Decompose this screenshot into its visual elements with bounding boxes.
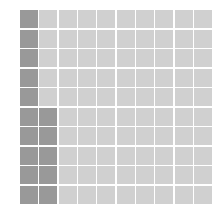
waffle-cell-empty <box>97 30 115 48</box>
waffle-cell-empty <box>155 147 173 165</box>
waffle-cell-filled <box>20 147 38 165</box>
waffle-cell-empty <box>136 127 154 145</box>
waffle-cell-empty <box>136 30 154 48</box>
waffle-cell-empty <box>194 49 212 67</box>
waffle-cell-empty <box>78 69 96 87</box>
waffle-cell-empty <box>194 69 212 87</box>
waffle-cell-empty <box>59 108 77 126</box>
waffle-cell-empty <box>194 166 212 184</box>
waffle-cell-filled <box>39 127 57 145</box>
waffle-cell-empty <box>97 49 115 67</box>
waffle-cell-empty <box>117 147 135 165</box>
waffle-cell-empty <box>59 166 77 184</box>
waffle-cell-empty <box>117 49 135 67</box>
waffle-cell-empty <box>136 10 154 28</box>
waffle-cell-empty <box>175 69 193 87</box>
waffle-cell-empty <box>117 166 135 184</box>
waffle-cell-empty <box>117 186 135 204</box>
waffle-cell-empty <box>117 30 135 48</box>
waffle-cell-empty <box>97 88 115 106</box>
waffle-cell-empty <box>155 166 173 184</box>
waffle-cell-empty <box>97 166 115 184</box>
waffle-cell-empty <box>59 186 77 204</box>
waffle-cell-filled <box>20 166 38 184</box>
waffle-cell-empty <box>78 49 96 67</box>
waffle-chart <box>20 10 212 204</box>
waffle-cell-empty <box>136 186 154 204</box>
waffle-cell-empty <box>136 108 154 126</box>
waffle-cell-empty <box>136 88 154 106</box>
waffle-cell-filled <box>20 88 38 106</box>
waffle-cell-empty <box>194 127 212 145</box>
waffle-cell-filled <box>20 30 38 48</box>
waffle-cell-empty <box>39 88 57 106</box>
waffle-cell-empty <box>194 147 212 165</box>
waffle-cell-empty <box>59 49 77 67</box>
waffle-cell-empty <box>39 69 57 87</box>
waffle-cell-empty <box>136 69 154 87</box>
waffle-cell-empty <box>194 88 212 106</box>
waffle-cell-filled <box>39 186 57 204</box>
waffle-cell-empty <box>97 10 115 28</box>
waffle-cell-empty <box>97 108 115 126</box>
waffle-cell-filled <box>20 186 38 204</box>
waffle-cell-empty <box>136 147 154 165</box>
waffle-cell-empty <box>78 108 96 126</box>
waffle-cell-empty <box>175 166 193 184</box>
waffle-cell-empty <box>78 166 96 184</box>
waffle-cell-empty <box>59 147 77 165</box>
waffle-cell-filled <box>39 166 57 184</box>
waffle-cell-empty <box>97 127 115 145</box>
waffle-cell-empty <box>39 49 57 67</box>
waffle-cell-empty <box>194 108 212 126</box>
waffle-cell-empty <box>155 10 173 28</box>
waffle-cell-filled <box>20 49 38 67</box>
waffle-cell-empty <box>117 88 135 106</box>
waffle-cell-empty <box>155 88 173 106</box>
waffle-cell-empty <box>175 147 193 165</box>
waffle-cell-empty <box>117 69 135 87</box>
waffle-cell-empty <box>175 49 193 67</box>
waffle-cell-empty <box>78 30 96 48</box>
waffle-cell-empty <box>78 10 96 28</box>
waffle-cell-empty <box>97 69 115 87</box>
waffle-cell-empty <box>39 10 57 28</box>
waffle-cell-empty <box>117 108 135 126</box>
waffle-cell-empty <box>59 69 77 87</box>
waffle-cell-empty <box>155 69 173 87</box>
waffle-cell-empty <box>59 88 77 106</box>
waffle-cell-empty <box>155 30 173 48</box>
waffle-cell-empty <box>39 30 57 48</box>
waffle-cell-filled <box>20 10 38 28</box>
waffle-cell-empty <box>155 108 173 126</box>
waffle-cell-empty <box>136 166 154 184</box>
waffle-cell-empty <box>155 49 173 67</box>
waffle-cell-empty <box>175 108 193 126</box>
waffle-cell-empty <box>175 30 193 48</box>
waffle-cell-empty <box>194 30 212 48</box>
waffle-cell-empty <box>78 127 96 145</box>
waffle-cell-empty <box>97 147 115 165</box>
waffle-cell-empty <box>97 186 115 204</box>
waffle-cell-empty <box>117 127 135 145</box>
waffle-cell-empty <box>175 10 193 28</box>
waffle-cell-empty <box>59 10 77 28</box>
waffle-cell-empty <box>78 147 96 165</box>
waffle-cell-filled <box>20 127 38 145</box>
waffle-cell-empty <box>117 10 135 28</box>
waffle-cell-empty <box>155 186 173 204</box>
waffle-cell-empty <box>59 30 77 48</box>
waffle-cell-empty <box>194 186 212 204</box>
waffle-cell-filled <box>20 69 38 87</box>
waffle-cell-filled <box>39 147 57 165</box>
waffle-cell-empty <box>175 186 193 204</box>
waffle-cell-empty <box>78 186 96 204</box>
waffle-cell-empty <box>59 127 77 145</box>
waffle-cell-empty <box>194 10 212 28</box>
waffle-cell-empty <box>175 88 193 106</box>
waffle-cell-filled <box>39 108 57 126</box>
waffle-cell-empty <box>155 127 173 145</box>
waffle-cell-empty <box>175 127 193 145</box>
waffle-cell-empty <box>136 49 154 67</box>
waffle-cell-filled <box>20 108 38 126</box>
